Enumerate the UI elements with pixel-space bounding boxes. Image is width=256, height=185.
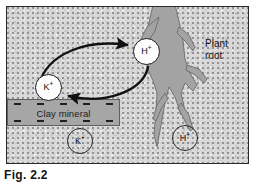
plant-root-label: Plant root xyxy=(205,38,249,62)
ion-h-exchange: H+ xyxy=(133,38,160,65)
plant-root-label-line1: Plant xyxy=(205,38,249,50)
ion-k-exchange: K+ xyxy=(35,74,62,101)
figure-caption: Fig. 2.2 xyxy=(4,168,48,182)
negative-charge-icon xyxy=(106,120,113,122)
ion-h-soil-label: H+ xyxy=(180,134,190,143)
ion-k-exchange-label: K+ xyxy=(44,83,54,92)
diagram-panel: Clay mineral K+ H+ xyxy=(6,6,249,164)
ion-k-soil-label: K+ xyxy=(75,137,85,146)
clay-mineral-label: Clay mineral xyxy=(8,107,119,118)
negative-charge-icon xyxy=(14,103,21,105)
negative-charge-icon xyxy=(37,103,44,105)
ion-h-exchange-label: H+ xyxy=(141,47,151,56)
clay-charges-top xyxy=(14,103,113,105)
negative-charge-icon xyxy=(83,103,90,105)
plant-root-label-line2: root xyxy=(205,50,249,62)
negative-charge-icon xyxy=(60,103,67,105)
figure-container: Clay mineral K+ H+ xyxy=(0,0,256,185)
clay-charges-bottom xyxy=(14,120,113,122)
clay-mineral-block: Clay mineral xyxy=(7,99,120,126)
ion-k-soil: K+ xyxy=(67,128,93,154)
negative-charge-icon xyxy=(106,103,113,105)
ion-h-soil: H+ xyxy=(172,125,198,151)
negative-charge-icon xyxy=(14,120,21,122)
negative-charge-icon xyxy=(37,120,44,122)
negative-charge-icon xyxy=(60,120,67,122)
negative-charge-icon xyxy=(83,120,90,122)
